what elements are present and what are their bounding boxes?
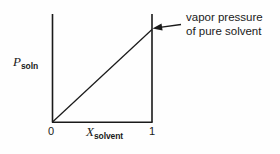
raoults-law-figure: Psoln Xsolvent 0 1 vapor pressure of pur…: [0, 0, 280, 154]
annotation-line-1: vapor pressure: [186, 11, 263, 25]
annotation-arrow: [153, 24, 182, 31]
x-axis-label-subscript: solvent: [94, 131, 123, 141]
y-axis-label-symbol: P: [13, 54, 21, 69]
annotation-line-2: of pure solvent: [186, 25, 263, 39]
y-axis-label: Psoln: [13, 55, 38, 68]
raoults-law-line: [53, 30, 153, 123]
y-axis-label-subscript: soln: [21, 61, 38, 71]
x-axis-label-symbol: X: [86, 124, 94, 139]
x-tick-label-0: 0: [48, 126, 54, 137]
x-tick-label-1: 1: [149, 126, 155, 137]
annotation-text: vapor pressure of pure solvent: [186, 11, 263, 38]
x-axis-label: Xsolvent: [86, 125, 123, 138]
